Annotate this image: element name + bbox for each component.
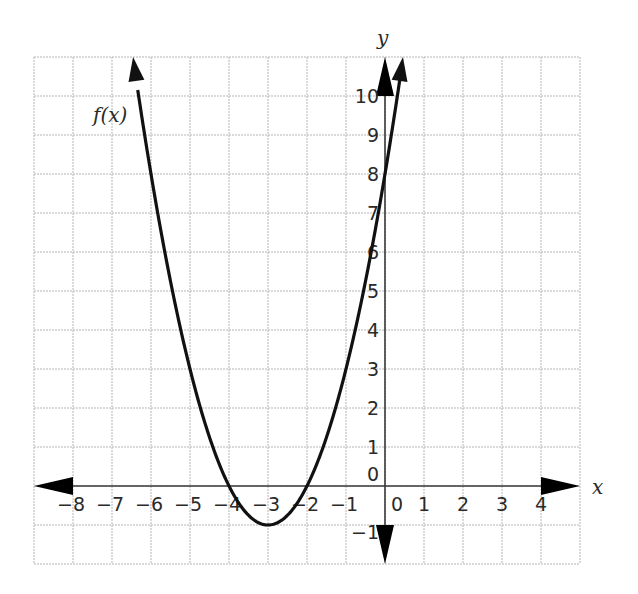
y-tick-label: 1 xyxy=(367,436,379,458)
x-tick-label: 0 xyxy=(391,493,403,515)
x-tick-label: −8 xyxy=(57,493,85,515)
x-tick-label: 4 xyxy=(535,493,547,515)
y-tick-label: 5 xyxy=(367,280,379,302)
y-tick-label: 4 xyxy=(367,319,379,341)
x-tick-label: 2 xyxy=(457,493,469,515)
function-label: f(x) xyxy=(91,103,127,127)
curve-right-arrow-icon xyxy=(392,57,408,82)
y-tick-label: 3 xyxy=(367,358,379,380)
x-tick-label: −4 xyxy=(213,493,241,515)
function-graph: −8−7−6−5−4−3−2−101234−1012345678910 x y … xyxy=(0,0,638,594)
y-tick-label: 8 xyxy=(367,163,379,185)
x-tick-label: 1 xyxy=(418,493,430,515)
y-tick-label: −1 xyxy=(351,521,379,543)
y-tick-label: 0 xyxy=(367,463,379,485)
x-tick-label: 3 xyxy=(496,493,508,515)
x-axis-label: x xyxy=(592,475,603,499)
x-tick-label: −5 xyxy=(174,493,202,515)
curve-left-arrow-icon xyxy=(129,57,145,82)
y-tick-label: 2 xyxy=(367,397,379,419)
y-tick-label: 9 xyxy=(367,124,379,146)
y-axis-label: y xyxy=(376,26,389,50)
tick-labels: −8−7−6−5−4−3−2−101234−1012345678910 xyxy=(57,85,547,543)
y-tick-label: 10 xyxy=(355,85,379,107)
x-tick-label: −3 xyxy=(252,493,280,515)
x-tick-label: −6 xyxy=(135,493,163,515)
x-tick-label: −7 xyxy=(96,493,124,515)
parabola-curve xyxy=(138,69,402,525)
x-tick-label: −1 xyxy=(330,493,358,515)
